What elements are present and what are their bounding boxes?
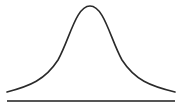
bell-curve-diagram: [0, 0, 180, 112]
bell-curve: [7, 6, 175, 92]
